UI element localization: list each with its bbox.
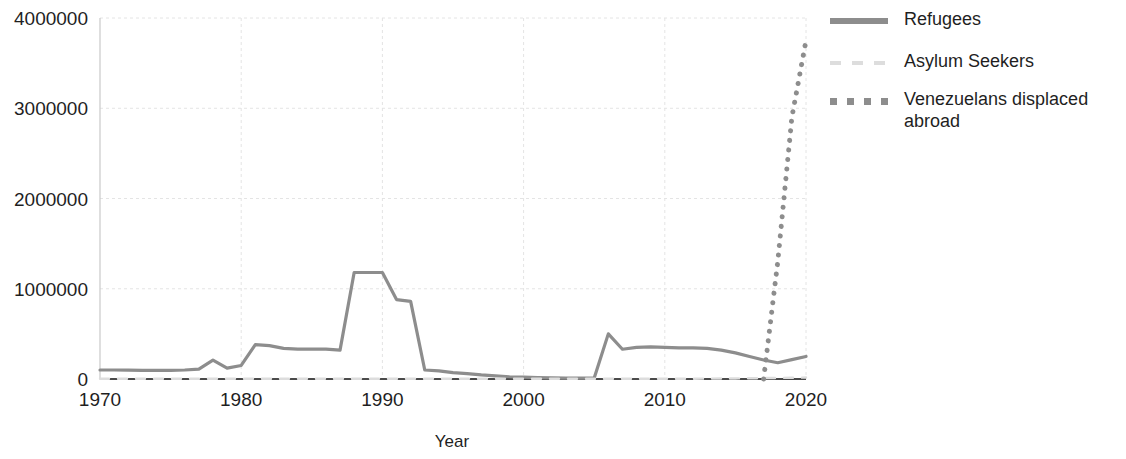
line-chart: 01000000200000030000004000000 1970198019… <box>0 0 1126 459</box>
y-tick-label: 0 <box>77 369 88 390</box>
gridlines-group <box>100 18 806 379</box>
chart-legend: Refugees Asylum Seekers Venezuelans disp… <box>828 0 1126 459</box>
y-tick-label: 3000000 <box>14 98 88 119</box>
plot-area-wrapper: 01000000200000030000004000000 1970198019… <box>0 0 830 459</box>
y-tick-label: 1000000 <box>14 279 88 300</box>
legend-item-asylum-seekers: Asylum Seekers <box>828 50 1126 74</box>
x-tick-label: 1990 <box>361 389 403 410</box>
x-tick-label: 2020 <box>785 389 827 410</box>
dashed-line-key-icon <box>828 52 890 74</box>
x-tick-labels-group: 197019801990200020102020 <box>79 389 827 410</box>
x-tick-label: 2000 <box>502 389 544 410</box>
x-axis-title: Year <box>435 432 470 451</box>
legend-item-refugees: Refugees <box>828 8 1126 32</box>
series-line-2 <box>764 41 806 379</box>
series-layer <box>100 41 806 379</box>
dotted-line-key-icon <box>828 90 890 112</box>
plot-svg: 01000000200000030000004000000 1970198019… <box>0 0 830 459</box>
legend-label-asylum-seekers: Asylum Seekers <box>904 50 1034 72</box>
y-tick-labels-group: 01000000200000030000004000000 <box>14 8 88 390</box>
legend-label-refugees: Refugees <box>904 8 981 30</box>
solid-line-key-icon <box>828 10 890 32</box>
legend-label-venezuelans-displaced: Venezuelans displaced abroad <box>904 88 1119 132</box>
x-tick-label: 2010 <box>644 389 686 410</box>
x-tick-label: 1970 <box>79 389 121 410</box>
y-tick-label: 4000000 <box>14 8 88 29</box>
legend-item-venezuelans-displaced: Venezuelans displaced abroad <box>828 88 1126 132</box>
y-tick-label: 2000000 <box>14 189 88 210</box>
x-tick-label: 1980 <box>220 389 262 410</box>
